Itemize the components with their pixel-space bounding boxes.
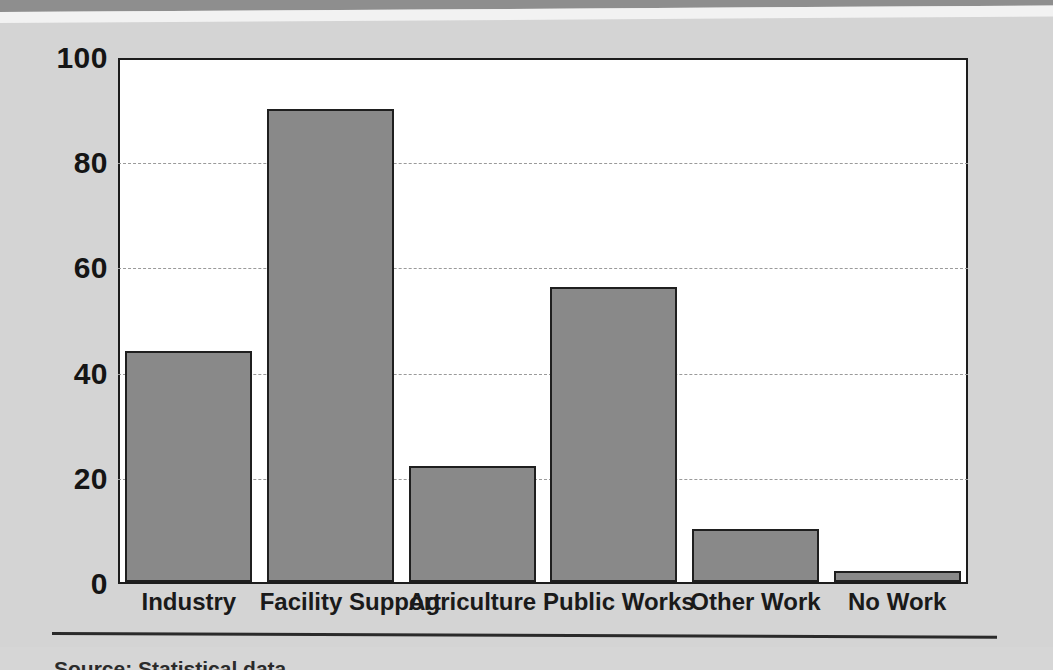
bar bbox=[409, 466, 536, 582]
bar bbox=[834, 571, 961, 582]
x-axis-category-label: Facility Support bbox=[260, 589, 402, 615]
source-note: Source: Statistical data bbox=[54, 657, 954, 670]
footer-divider-rule bbox=[52, 632, 997, 639]
y-axis-tick-label: 0 bbox=[0, 569, 108, 599]
x-axis-category-labels: IndustryFacility SupportAgriculturePubli… bbox=[118, 589, 968, 629]
y-axis-tick-label: 80 bbox=[0, 148, 108, 178]
bar bbox=[692, 529, 819, 582]
bar bbox=[125, 351, 252, 582]
y-axis-tick-labels: 020406080100 bbox=[0, 23, 108, 647]
y-axis-tick-label: 40 bbox=[0, 359, 108, 389]
y-axis-tick-label: 60 bbox=[0, 253, 108, 283]
y-axis-tick-label: 100 bbox=[0, 43, 108, 73]
bar bbox=[267, 109, 394, 582]
bar-chart-figure: 020406080100 IndustryFacility SupportAgr… bbox=[0, 23, 1053, 647]
x-axis-category-label: Public Works bbox=[543, 589, 685, 615]
x-axis-category-label: Agriculture bbox=[401, 589, 543, 615]
x-axis-category-label: No Work bbox=[826, 589, 968, 615]
bars-layer bbox=[118, 58, 968, 584]
x-axis-category-label: Industry bbox=[118, 589, 260, 615]
bar bbox=[550, 287, 677, 582]
x-axis-category-label: Other Work bbox=[685, 589, 827, 615]
y-axis-tick-label: 20 bbox=[0, 464, 108, 494]
